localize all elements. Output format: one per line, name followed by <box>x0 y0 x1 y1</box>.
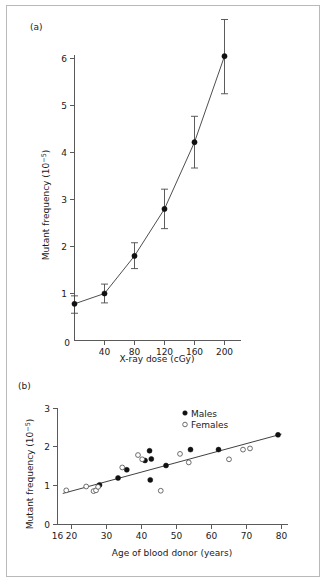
panel-b-ylabel: Mutant frequency (10−5) <box>24 419 36 530</box>
panel-b-series <box>63 432 282 493</box>
data-point-filled-circle <box>276 432 281 437</box>
panel-a-data-line <box>75 56 225 304</box>
panel-b-x-ticks: 16 20 30 40 50 60 70 80 <box>52 525 288 542</box>
panel-a-ytick-6: 6 <box>61 54 67 64</box>
data-point-open-circle <box>64 488 69 493</box>
figure-root: (a) Mutant frequency (10−5) 1 2 3 <box>0 0 327 582</box>
svg-text:Mutant frequency (10−5): Mutant frequency (10−5) <box>24 419 36 530</box>
panel-b-ytick-0: 0 <box>44 520 50 530</box>
data-point-filled-circle <box>102 291 107 296</box>
data-point-filled-circle <box>192 140 197 145</box>
panel-b-xtick-60: 60 <box>206 531 218 541</box>
data-point-open-circle <box>178 451 183 456</box>
panel-a-series <box>71 19 228 313</box>
panel-a-ytick-4: 4 <box>61 148 67 158</box>
panel-b-xtick-80: 80 <box>276 531 288 541</box>
panel-b-xlabel: Age of blood donor (years) <box>112 548 232 558</box>
data-point-open-circle <box>241 447 246 452</box>
data-point-filled-circle <box>162 206 167 211</box>
data-point-filled-circle <box>148 477 153 482</box>
panel-b: (b) Mutant frequency (10−5) 0 1 2 3 <box>0 360 327 582</box>
legend-females-label: Females <box>191 420 229 430</box>
panel-b-ylabel-exponent: −5 <box>24 422 32 432</box>
data-point-filled-circle <box>147 448 152 453</box>
panel-a-ytick-1: 1 <box>61 289 67 299</box>
panel-a-svg: (a) Mutant frequency (10−5) 1 2 3 <box>0 0 327 360</box>
panel-b-ylabel-main: Mutant frequency (10 <box>25 431 35 529</box>
legend-males-filled-circle-icon <box>183 411 188 416</box>
data-point-open-circle <box>96 484 101 489</box>
data-point-open-circle <box>140 457 145 462</box>
data-point-filled-circle <box>222 54 227 59</box>
panel-a-ytick-5: 5 <box>61 101 67 111</box>
panel-a-label: (a) <box>30 22 43 32</box>
panel-a-ytick-2: 2 <box>61 242 67 252</box>
panel-a-ylabel-exponent: −5 <box>40 153 48 163</box>
data-point-filled-circle <box>132 253 137 258</box>
legend-females-open-circle-icon <box>183 422 188 427</box>
svg-text:Mutant frequency (10−5): Mutant frequency (10−5) <box>40 150 52 261</box>
data-point-filled-circle <box>188 447 193 452</box>
data-point-open-circle <box>227 457 232 462</box>
panel-b-legend: Males Females <box>183 409 229 431</box>
legend-males-label: Males <box>191 409 217 419</box>
panel-b-xtick-30: 30 <box>101 531 113 541</box>
panel-a-ytick-3: 3 <box>61 195 67 205</box>
panel-b-xtick-70: 70 <box>241 531 253 541</box>
panel-b-ytick-1: 1 <box>44 481 50 491</box>
panel-a-xtick-0: 0 <box>64 338 70 348</box>
panel-b-xtick-16: 16 <box>52 531 64 541</box>
data-point-open-circle <box>248 446 253 451</box>
panel-b-regression-line <box>63 434 282 493</box>
panel-b-label: (b) <box>18 381 31 391</box>
panel-b-xtick-50: 50 <box>171 531 183 541</box>
data-point-filled-circle <box>124 467 129 472</box>
panel-a-y-ticks: 1 2 3 4 5 6 <box>61 54 74 299</box>
panel-b-svg: (b) Mutant frequency (10−5) 0 1 2 3 <box>0 360 327 582</box>
panel-b-ytick-2: 2 <box>44 442 50 452</box>
data-point-filled-circle <box>149 456 154 461</box>
panel-a-ylabel: Mutant frequency (10−5) <box>40 150 52 261</box>
panel-b-xtick-20: 20 <box>66 531 78 541</box>
data-point-filled-circle <box>72 301 77 306</box>
data-point-filled-circle <box>164 463 169 468</box>
data-point-open-circle <box>186 460 191 465</box>
data-point-open-circle <box>120 465 125 470</box>
data-point-open-circle <box>136 453 141 458</box>
panel-a-ylabel-close: ) <box>41 150 51 154</box>
panel-b-ytick-3: 3 <box>44 404 50 414</box>
panel-b-ylabel-close: ) <box>25 419 35 423</box>
data-point-open-circle <box>84 484 89 489</box>
panel-b-y-ticks: 0 1 2 3 <box>44 404 57 530</box>
data-point-filled-circle <box>116 475 121 480</box>
data-point-filled-circle <box>216 447 221 452</box>
panel-a: (a) Mutant frequency (10−5) 1 2 3 <box>0 0 327 360</box>
panel-b-xtick-40: 40 <box>136 531 148 541</box>
panel-a-ylabel-main: Mutant frequency (10 <box>41 162 51 260</box>
data-point-open-circle <box>158 488 163 493</box>
